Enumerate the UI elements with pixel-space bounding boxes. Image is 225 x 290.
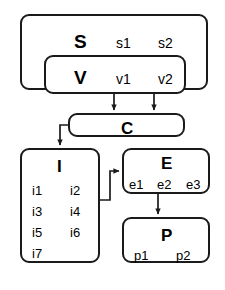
node-c-title: C — [121, 120, 133, 137]
node-p-item-p1: p1 — [134, 249, 148, 262]
node-c[interactable]: C — [68, 113, 185, 137]
node-i-item-i7: i7 — [32, 247, 42, 260]
node-p-item-p2: p2 — [176, 249, 190, 262]
node-e-item-e3: e3 — [186, 178, 200, 191]
node-i-item-i6: i6 — [70, 226, 80, 239]
node-e-title: E — [161, 155, 172, 172]
node-e[interactable]: E e1 e2 e3 — [122, 148, 210, 194]
node-i-title: I — [57, 158, 62, 175]
node-i-item-i1: i1 — [32, 184, 42, 197]
node-s-title: S — [74, 32, 87, 51]
diagram-canvas: S s1 s2 V v1 v2 C I i1 i2 i3 i4 i5 i6 i7… — [0, 0, 225, 290]
node-e-item-e2: e2 — [157, 178, 171, 191]
node-s-item-s2: s2 — [158, 36, 173, 50]
node-v-item-v2: v2 — [158, 72, 173, 86]
node-i[interactable]: I i1 i2 i3 i4 i5 i6 i7 — [20, 148, 100, 263]
node-i-item-i5: i5 — [32, 226, 42, 239]
node-s-item-s1: s1 — [116, 36, 131, 50]
node-e-item-e1: e1 — [129, 178, 143, 191]
node-p[interactable]: P p1 p2 — [122, 217, 210, 263]
edge-i-to-e — [100, 171, 119, 200]
node-p-title: P — [161, 227, 172, 244]
node-v-title: V — [74, 68, 87, 87]
edge-c-to-i — [60, 125, 68, 145]
node-i-item-i4: i4 — [70, 205, 80, 218]
node-i-item-i3: i3 — [32, 205, 42, 218]
node-v[interactable]: V v1 v2 — [44, 55, 186, 94]
node-v-item-v1: v1 — [116, 72, 131, 86]
node-i-item-i2: i2 — [70, 184, 80, 197]
